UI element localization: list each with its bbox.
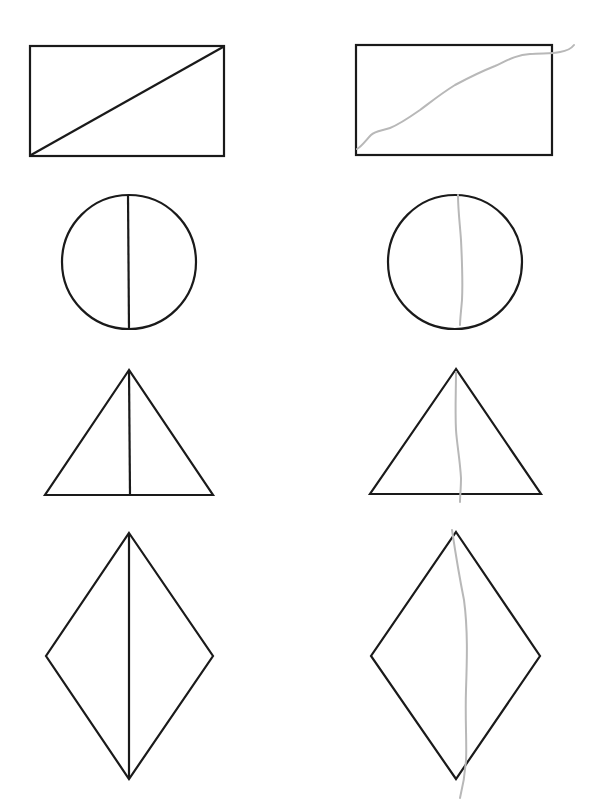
reference-rectangle: [30, 46, 224, 156]
attempt-triangle: [370, 369, 541, 502]
attempt-circle: [388, 195, 522, 329]
shape-bisection-diagram: [0, 0, 599, 810]
rhombus-outline: [371, 532, 540, 779]
circle-diameter-line: [128, 195, 129, 329]
rectangle-diagonal-line: [31, 47, 223, 155]
attempt-rhombus: [371, 530, 540, 798]
circle-outline: [388, 195, 522, 329]
attempt-rectangle: [356, 45, 574, 155]
reference-circle: [62, 195, 196, 329]
rhombus-hand-drawn-line: [452, 530, 467, 798]
reference-triangle: [45, 370, 213, 495]
rectangle-outline: [356, 45, 552, 155]
triangle-altitude-line: [129, 371, 130, 495]
rectangle-hand-drawn-line: [357, 45, 574, 149]
circle-hand-drawn-line: [458, 195, 462, 325]
reference-rhombus: [46, 533, 213, 779]
triangle-hand-drawn-line: [456, 372, 461, 502]
